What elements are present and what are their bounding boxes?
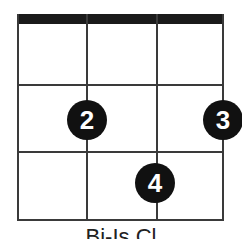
fret-line-3 bbox=[17, 219, 224, 221]
fret-line-1 bbox=[17, 84, 224, 86]
fret-line-2 bbox=[17, 151, 224, 153]
finger-dot: 2 bbox=[67, 100, 107, 140]
chord-name-label: Bi-Is Cl bbox=[0, 224, 242, 239]
chord-diagram: 2 3 4 Bi-Is Cl bbox=[0, 0, 242, 239]
finger-dot: 4 bbox=[135, 163, 175, 203]
finger-dot: 3 bbox=[203, 100, 242, 140]
string-1 bbox=[17, 14, 19, 221]
nut-bar bbox=[17, 14, 224, 24]
